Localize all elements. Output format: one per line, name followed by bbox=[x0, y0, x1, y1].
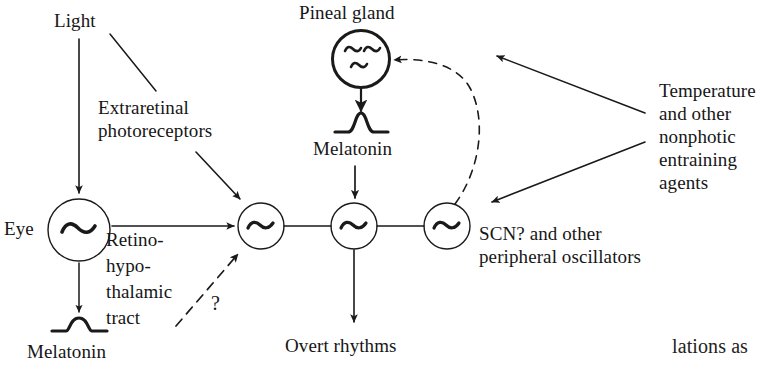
label-retinohypothalamic-tract: Retino- hypo- thalamic tract bbox=[106, 227, 172, 331]
pineal-glyph-tilde-1 bbox=[345, 47, 361, 51]
pineal-glyph-tilde-3 bbox=[351, 63, 367, 67]
label-melatonin-left: Melatonin bbox=[27, 340, 106, 363]
label-question-mark: ? bbox=[211, 292, 220, 315]
melatonin-waveform-pineal bbox=[335, 113, 388, 132]
oscillator-2-glyph bbox=[341, 222, 366, 228]
page-text-fragment: lations as bbox=[672, 335, 748, 358]
temperature-to-oscillator3-arrow bbox=[492, 142, 645, 202]
label-pineal-gland: Pineal gland bbox=[299, 1, 395, 24]
eye-oscillator-glyph bbox=[62, 224, 95, 232]
label-eye: Eye bbox=[4, 217, 34, 240]
label-extraretinal-photoreceptors: Extraretinal photoreceptors bbox=[98, 96, 212, 142]
extraretinal-to-oscillator1-arrow bbox=[196, 152, 240, 199]
label-light: Light bbox=[54, 9, 96, 32]
pineal-glyph-tilde-2 bbox=[364, 47, 380, 51]
label-temperature-nonphotic-agents: Temperature and other nonphotic entraini… bbox=[659, 79, 756, 194]
label-overt-rhythms: Overt rhythms bbox=[285, 334, 397, 357]
melatonin-to-oscillator1-dashed-arrow bbox=[176, 254, 238, 326]
circadian-system-diagram: Light Extraretinal photoreceptors Eye Re… bbox=[0, 0, 780, 371]
oscillator3-to-pineal-dashed-arrow bbox=[394, 60, 479, 204]
oscillator-3-glyph bbox=[434, 222, 459, 228]
oscillator-1-glyph bbox=[248, 222, 273, 228]
label-melatonin-pineal: Melatonin bbox=[313, 137, 392, 160]
light-to-extraretinal-line bbox=[110, 34, 156, 91]
melatonin-waveform-left bbox=[52, 318, 107, 331]
pineal-gland-circle bbox=[333, 31, 390, 88]
temperature-to-pineal-arrow bbox=[497, 56, 645, 113]
label-scn-peripheral-oscillators: SCN? and other peripheral oscillators bbox=[479, 222, 641, 268]
